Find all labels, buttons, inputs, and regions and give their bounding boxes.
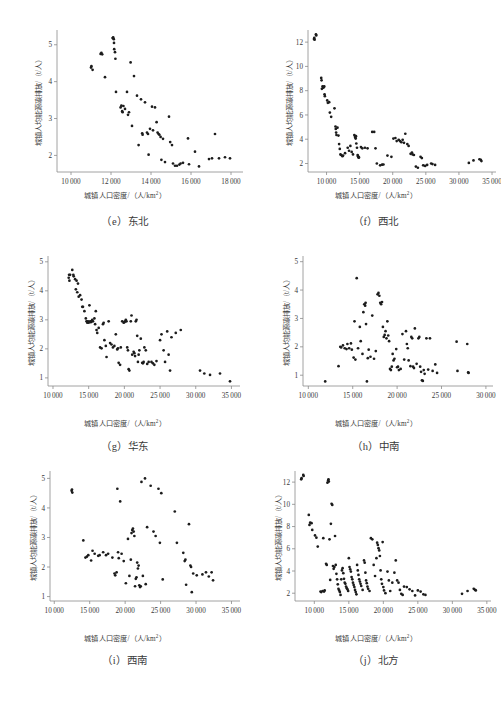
svg-text:2: 2 [41,564,45,572]
svg-text:14 000: 14 000 [141,178,161,186]
svg-text:20 000: 20 000 [387,392,407,400]
panel-g-plot: 1234510 00015 00020 00025 00030 00035 00… [0,238,250,426]
figure-scatter-grid: 234510 00012 00014 00016 00018 000城镇人均能源… [0,0,501,704]
panel-j: 2468101210 00015 00020 00025 00030 00035… [251,453,501,688]
svg-text:3: 3 [39,316,43,324]
svg-text:30 000: 30 000 [186,607,206,615]
panel-g-xaxis-title: 城镇人口密度/（人/km2） [0,418,250,428]
panel-i-xaxis-title: 城镇人口密度/（人/km2） [0,633,250,643]
svg-text:城镇人均能源碳排放/（t/人）: 城镇人均能源碳排放/（t/人） [274,491,283,581]
panel-f: 2468101210 00015 00020 00025 00030 00035… [251,0,501,235]
panel-h-caption: （h）中南 [251,438,501,453]
panel-h-xaxis-title: 城镇人口密度/（人/km2） [251,418,501,428]
panel-i-caption: （i）西南 [0,652,250,667]
svg-text:10 000: 10 000 [45,607,65,615]
panel-j-xaxis-title: 城镇人口密度/（人/km2） [251,633,501,643]
svg-text:6: 6 [286,545,290,553]
svg-text:12: 12 [283,479,291,487]
svg-text:5: 5 [48,41,52,49]
panel-i-plot: 1234510 00015 00020 00025 00030 00035 00… [0,453,250,641]
svg-text:3: 3 [294,315,298,323]
svg-text:2: 2 [48,152,52,160]
svg-text:10 000: 10 000 [305,607,325,615]
panel-f-xaxis-title: 城镇人口密度/（人/km2） [251,190,501,200]
svg-text:城镇人均能源碳排放/（t/人）: 城镇人均能源碳排放/（t/人） [282,276,291,366]
svg-text:3: 3 [48,115,52,123]
panel-h: 1234510 00015 00020 00025 00030 000城镇人均能… [251,238,501,473]
svg-text:5: 5 [294,258,298,266]
svg-text:城镇人均能源碳排放/（t/人）: 城镇人均能源碳排放/（t/人） [285,56,294,146]
svg-text:35 000: 35 000 [222,607,242,615]
svg-text:2: 2 [286,590,290,598]
svg-text:15 000: 15 000 [343,392,363,400]
panel-f-plot: 2468101210 00015 00020 00025 00030 00035… [251,0,501,200]
svg-text:4: 4 [41,505,45,513]
svg-text:1: 1 [39,374,43,382]
svg-text:25 000: 25 000 [151,607,171,615]
svg-text:25 000: 25 000 [432,392,452,400]
svg-text:10 000: 10 000 [299,392,319,400]
svg-text:12 000: 12 000 [101,178,121,186]
svg-text:30 000: 30 000 [186,392,206,400]
svg-text:30 000: 30 000 [443,607,463,615]
svg-text:18 000: 18 000 [221,178,241,186]
svg-text:3: 3 [41,534,45,542]
panel-j-plot: 2468101210 00015 00020 00025 00030 00035… [251,453,501,641]
svg-text:城镇人均能源碳排放/（t/人）: 城镇人均能源碳排放/（t/人） [34,56,43,146]
panel-e-xaxis-title: 城镇人口密度/（人/km2） [0,190,250,200]
svg-text:20 000: 20 000 [115,392,135,400]
panel-j-caption: （j）北方 [251,652,501,667]
svg-text:10 000: 10 000 [61,178,81,186]
svg-text:10 000: 10 000 [43,392,63,400]
svg-text:8: 8 [299,87,303,95]
panel-f-caption: （f）西北 [251,213,501,228]
panel-e-plot: 234510 00012 00014 00016 00018 000城镇人均能源… [0,0,250,200]
svg-text:2: 2 [294,343,298,351]
svg-text:1: 1 [41,593,45,601]
svg-text:城镇人均能源碳排放/（t/人）: 城镇人均能源碳排放/（t/人） [29,491,38,581]
svg-text:25 000: 25 000 [408,607,428,615]
svg-text:5: 5 [41,475,45,483]
svg-text:15 000: 15 000 [79,392,99,400]
svg-text:城镇人均能源碳排放/（t/人）: 城镇人均能源碳排放/（t/人） [27,276,36,366]
svg-text:4: 4 [48,78,52,86]
svg-text:4: 4 [299,136,303,144]
svg-text:15 000: 15 000 [339,607,359,615]
svg-text:35 000: 35 000 [477,607,497,615]
svg-text:1: 1 [294,372,298,380]
svg-text:4: 4 [286,568,290,576]
svg-text:12: 12 [296,39,304,47]
svg-text:4: 4 [39,287,43,295]
svg-text:16 000: 16 000 [181,178,201,186]
svg-text:10: 10 [283,501,291,509]
svg-text:35 000: 35 000 [482,178,501,186]
svg-text:25 000: 25 000 [416,178,436,186]
panel-e: 234510 00012 00014 00016 00018 000城镇人均能源… [0,0,250,235]
panel-h-plot: 1234510 00015 00020 00025 00030 000城镇人均能… [251,238,501,426]
svg-text:10 000: 10 000 [317,178,337,186]
svg-text:4: 4 [294,287,298,295]
panel-i: 1234510 00015 00020 00025 00030 00035 00… [0,453,250,688]
svg-text:20 000: 20 000 [383,178,403,186]
svg-text:2: 2 [299,160,303,168]
svg-text:8: 8 [286,523,290,531]
svg-text:25 000: 25 000 [150,392,170,400]
svg-text:10: 10 [296,63,304,71]
panel-g-caption: （g）华东 [0,438,250,453]
svg-text:15 000: 15 000 [80,607,100,615]
svg-text:15 000: 15 000 [350,178,370,186]
panel-g: 1234510 00015 00020 00025 00030 00035 00… [0,238,250,473]
svg-text:5: 5 [39,258,43,266]
svg-text:30 000: 30 000 [449,178,469,186]
svg-text:20 000: 20 000 [115,607,135,615]
panel-e-caption: （e）东北 [0,213,250,228]
svg-text:30 000: 30 000 [476,392,496,400]
svg-text:6: 6 [299,112,303,120]
svg-text:20 000: 20 000 [374,607,394,615]
svg-text:2: 2 [39,345,43,353]
svg-text:35 000: 35 000 [222,392,242,400]
